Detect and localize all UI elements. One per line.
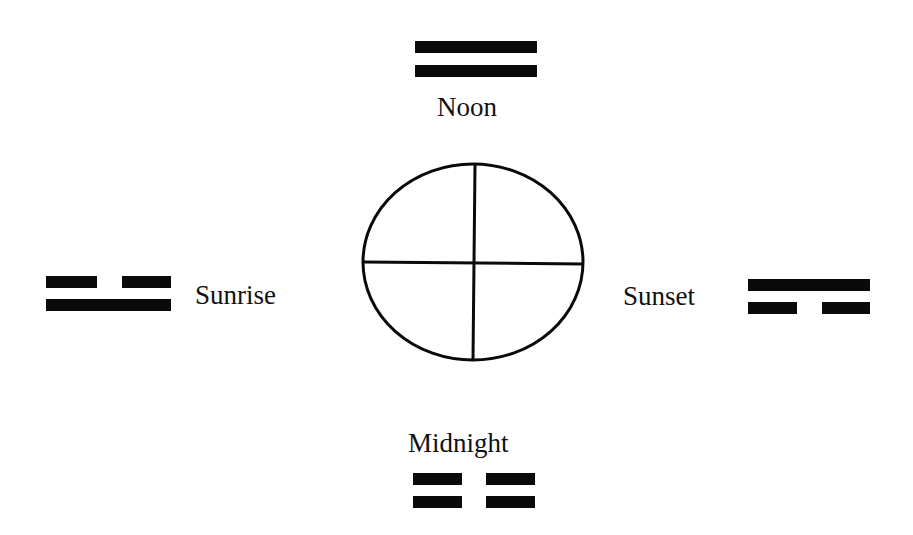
center-circle-cross-icon (0, 0, 913, 535)
